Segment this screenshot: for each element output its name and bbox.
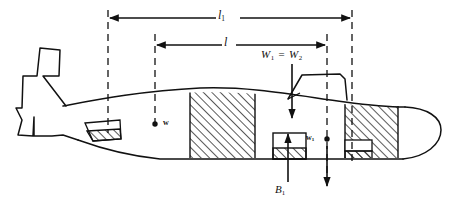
center-of-weight-forward-marker (152, 121, 157, 126)
center-of-weight-aft-marker (324, 136, 329, 141)
aft-ballast-tank (85, 120, 121, 141)
dimension-label-l1: l1 (218, 9, 225, 21)
midship-ballast-tank (190, 88, 255, 160)
buoyancy-label: B1 (275, 184, 285, 195)
conning-tower (288, 74, 347, 100)
diagram-canvas (0, 0, 451, 209)
buoyancy-tank (273, 133, 306, 159)
center-of-weight-aft-label: w1 (306, 134, 314, 142)
center-of-weight-forward-label: w (163, 119, 169, 127)
submarine-diagram-figure: l1 l W1 = W2 w w1 B1 (0, 0, 451, 209)
weight-equation-label: W1 = W2 (261, 49, 303, 60)
tail-fin-assembly (16, 48, 78, 140)
dimension-label-l: l (224, 36, 227, 48)
